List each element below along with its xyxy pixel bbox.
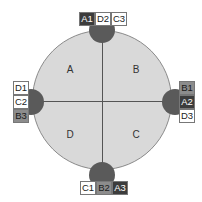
port-label-a2: A2 xyxy=(179,95,195,109)
port-label-c1: C1 xyxy=(80,181,96,195)
vertical-divider xyxy=(102,30,103,170)
quadrant-a-label: A xyxy=(62,64,78,75)
horizontal-divider xyxy=(32,101,172,102)
port-label-b1: B1 xyxy=(179,81,195,95)
port-label-a3: A3 xyxy=(112,181,128,195)
port-label-d3: D3 xyxy=(179,109,195,123)
port-label-c3: C3 xyxy=(111,12,127,26)
port-label-b3: B3 xyxy=(13,109,29,123)
port-label-a1: A1 xyxy=(79,12,95,26)
quadrant-b-label: B xyxy=(128,64,144,75)
port-label-d2: D2 xyxy=(95,12,111,26)
port-label-b2: B2 xyxy=(96,181,112,195)
port-label-c2: C2 xyxy=(13,95,29,109)
port-label-d1: D1 xyxy=(13,81,29,95)
quadrant-d-label: D xyxy=(62,129,78,140)
quadrant-c-label: C xyxy=(128,129,144,140)
